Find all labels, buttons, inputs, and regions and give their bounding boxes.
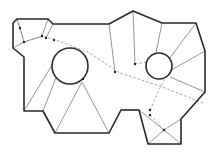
polygon-navigation-diagram xyxy=(0,0,218,152)
circular-obstacles xyxy=(52,48,172,84)
waypoint-dot xyxy=(134,63,136,65)
waypoint-dot xyxy=(41,35,43,37)
triangulation-edge xyxy=(170,77,205,92)
triangulation-edge xyxy=(133,11,135,64)
waypoint-dot xyxy=(45,37,47,39)
waypoint-dot xyxy=(82,78,84,80)
triangulation-edge xyxy=(55,82,82,133)
triangulation-edge xyxy=(20,28,24,42)
triangulation-edge xyxy=(164,130,181,144)
right-circle-obstacle xyxy=(146,53,172,79)
triangulation-edge xyxy=(164,119,181,130)
waypoint-dot xyxy=(149,109,151,111)
waypoint-dot xyxy=(53,39,55,41)
triangulation-edge xyxy=(109,24,115,72)
path-segment xyxy=(150,78,165,110)
triangulation-edge xyxy=(166,23,196,63)
path-segment xyxy=(150,115,164,130)
waypoint-dot xyxy=(114,71,116,73)
path-nodes xyxy=(19,27,165,131)
triangulation-edges xyxy=(13,11,205,144)
diagram-svg xyxy=(0,0,218,152)
waypoint-dot xyxy=(23,41,25,43)
path-segment xyxy=(17,19,205,104)
triangulation-edge xyxy=(46,24,53,38)
triangulation-edge xyxy=(13,42,24,48)
triangulation-edge xyxy=(42,19,48,36)
triangulation-edge xyxy=(171,51,205,70)
triangulation-edge xyxy=(156,23,162,53)
dashed-path xyxy=(17,19,205,130)
waypoint-dot xyxy=(149,114,151,116)
triangulation-edge xyxy=(148,130,164,144)
triangulation-edge xyxy=(82,82,109,133)
waypoint-dot xyxy=(19,27,21,29)
outer-boundary xyxy=(13,11,205,144)
waypoint-dot xyxy=(163,129,165,131)
